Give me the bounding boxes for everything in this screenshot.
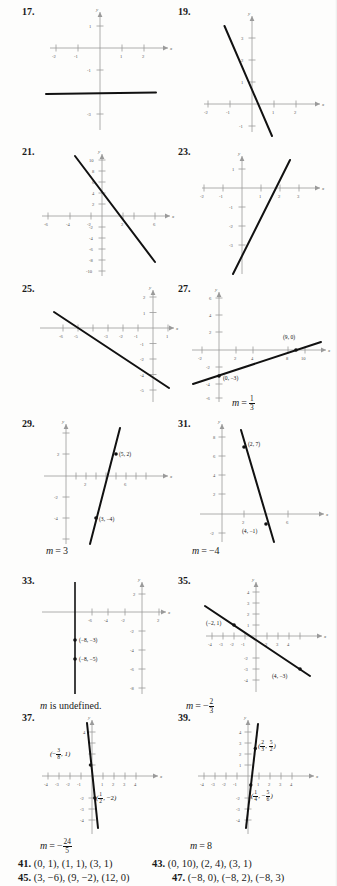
svg-text:6: 6 [286,520,289,525]
plot-point [249,783,252,786]
point-label-4-neg3: (4, −3) [272,673,287,680]
svg-text:x: x [321,186,325,191]
slope-undefined-text: is undefined. [47,700,101,711]
svg-text:1: 1 [101,782,104,787]
svg-text:-2: -2 [244,656,249,661]
svg-text:-2: -2 [230,642,235,647]
svg-text:3: 3 [297,194,300,199]
fraction-denominator: 3 [249,404,255,412]
svg-text:-2: -2 [200,194,205,199]
point-label-neg2-1: (−2, 1) [206,620,221,627]
svg-text:2: 2 [278,194,281,199]
problem-number-31: 31. [178,418,191,429]
point-label-5-2: (5, 2) [119,451,131,458]
svg-text:1: 1 [166,334,169,339]
svg-text:-3: -3 [104,334,109,339]
svg-text:1: 1 [241,80,244,85]
answer-43: 43. (0, 10), (2, 4), (3, 1) [152,858,252,869]
svg-text:y: y [217,419,221,424]
plot-point [254,747,257,750]
graph-25: x y -6 -5 -3 -2 -1 1 [32,284,182,408]
point-label-1-2-neg2: (12, −2) [96,792,116,804]
svg-text:-8: -8 [89,258,94,263]
plot-point [294,348,298,352]
svg-text:4: 4 [134,782,137,787]
fraction-2-3: 23 [260,740,265,752]
svg-text:-1: -1 [140,342,145,347]
svg-text:-1: -1 [77,782,82,787]
slope-fraction: 13 [249,395,255,411]
slope-label-29: m=3 [46,545,68,556]
graph-23: x y -2 -1 1 2 3 1 -1 -2 -3 [196,150,336,278]
svg-text:-2: -2 [210,531,215,536]
slope-label-27: m=13 [232,395,255,411]
point-label-neg3-8-1: (−38, 1) [50,748,70,760]
plot-point [232,623,236,627]
svg-text:-6: -6 [59,334,64,339]
svg-text:-3: -3 [236,807,241,812]
svg-text:2: 2 [133,592,136,597]
svg-text:x: x [321,102,325,107]
graph-29: x y 2 6 2 -2 -4 [38,420,183,546]
svg-text:3: 3 [123,782,126,787]
slope-fraction: 23 [209,698,215,714]
svg-text:-10: -10 [86,269,93,274]
svg-text:4: 4 [251,356,254,361]
svg-text:4: 4 [213,473,216,478]
svg-text:-1: -1 [229,205,234,210]
problem-number-39: 39. [178,712,191,723]
svg-text:2: 2 [142,54,145,59]
svg-text:4: 4 [92,191,95,196]
svg-text:-2: -2 [121,618,126,623]
point-label-2-7: (2, 7) [248,441,260,448]
svg-text:-5: -5 [74,334,79,339]
svg-text:-3: -3 [80,807,85,812]
svg-text:-1: -1 [74,54,79,59]
answer-text: (0, 1), (1, 1), (3, 1) [34,858,113,869]
problem-number-33: 33. [22,575,35,586]
graph-31: x y 2 6 8 6 4 2 -2 (2, 7) (4, −1) [194,420,337,546]
svg-text:-1: -1 [226,110,231,115]
slope-value: 8 [207,840,212,851]
svg-text:1: 1 [272,110,275,115]
svg-text:6: 6 [213,454,216,459]
plot-point [114,452,118,456]
svg-text:-8: -8 [130,686,135,691]
svg-text:x: x [159,774,163,779]
plot-point [217,374,221,378]
svg-text:10: 10 [89,158,94,163]
svg-text:-1: -1 [239,124,244,129]
svg-text:-6: -6 [88,618,93,623]
svg-text:-2: -2 [89,225,94,230]
answer-text: (−8, 0), (−8, 2), (−8, 3) [188,872,285,883]
svg-text:y: y [148,285,152,290]
svg-text:1: 1 [120,54,123,59]
svg-text:-1: -1 [87,68,92,73]
fraction-5-2: 52 [269,740,274,752]
plot-point [242,445,246,449]
svg-text:1: 1 [247,623,250,628]
answer-41: 41. (0, 1), (1, 1), (3, 1) [18,858,112,869]
fraction-denominator: 3 [209,707,215,715]
svg-text:2: 2 [92,202,95,207]
svg-text:1: 1 [257,782,260,787]
svg-text:-2: -2 [140,357,145,362]
slope-label-39: m=8 [190,840,212,851]
svg-text:-4: -4 [236,818,241,823]
svg-text:2: 2 [57,452,60,457]
plot-point [264,522,268,526]
svg-text:x: x [167,610,171,615]
svg-text:-1: -1 [219,194,224,199]
svg-text:x: x [175,326,179,331]
plot-point [73,657,77,661]
svg-text:-4: -4 [66,222,71,227]
svg-text:8: 8 [286,356,289,361]
svg-text:8: 8 [92,169,95,174]
slope-equals: = [193,700,203,711]
svg-text:-4: -4 [130,648,135,653]
svg-text:-4: -4 [104,618,109,623]
svg-text:-4: -4 [208,642,213,647]
slope-value: 3 [63,545,68,556]
svg-text:-3: -3 [219,642,224,647]
svg-text:y: y [247,11,251,16]
